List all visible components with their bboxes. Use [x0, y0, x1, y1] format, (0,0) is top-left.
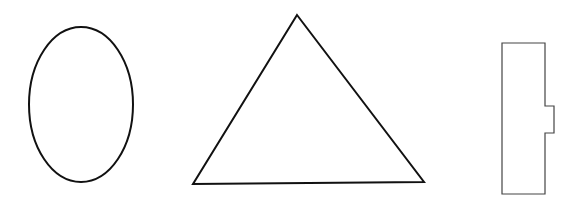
shapes-layer [0, 0, 580, 208]
notched-rectangle-shape [502, 43, 554, 194]
drawing-canvas [0, 0, 580, 208]
oval-shape [29, 27, 133, 182]
triangle-shape [193, 15, 424, 184]
